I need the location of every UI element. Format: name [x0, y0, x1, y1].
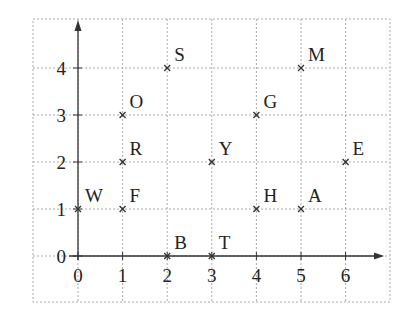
- point-o: O: [120, 91, 144, 118]
- x-tick-label: 1: [118, 265, 128, 286]
- point-y: Y: [209, 138, 233, 165]
- x-axis-arrow-icon: [374, 253, 384, 260]
- y-tick-label: 3: [57, 105, 67, 126]
- point-label: T: [219, 232, 231, 253]
- point-label: Y: [219, 138, 233, 159]
- point-label: H: [263, 185, 277, 206]
- y-tick-label: 1: [57, 199, 67, 220]
- point-label: S: [174, 44, 185, 65]
- point-label: A: [308, 185, 322, 206]
- point-g: G: [253, 91, 277, 118]
- point-h: H: [253, 185, 277, 212]
- point-label: E: [353, 138, 365, 159]
- point-m: M: [298, 44, 325, 71]
- coordinate-grid-chart: 012345601234 SMOGRYEWFHABT: [0, 0, 411, 325]
- y-tick-label: 4: [57, 58, 67, 79]
- tick-labels: 012345601234: [57, 58, 351, 286]
- x-tick-label: 2: [162, 265, 172, 286]
- point-label: O: [130, 91, 144, 112]
- point-a: A: [298, 185, 322, 212]
- point-label: R: [130, 138, 143, 159]
- x-tick-label: 6: [341, 265, 351, 286]
- x-tick-label: 4: [252, 265, 262, 286]
- y-tick-label: 0: [57, 246, 67, 267]
- x-tick-label: 0: [73, 265, 83, 286]
- point-label: B: [174, 232, 187, 253]
- point-label: G: [263, 91, 277, 112]
- point-label: W: [85, 185, 103, 206]
- x-tick-label: 3: [207, 265, 217, 286]
- point-w: W: [75, 185, 103, 212]
- y-axis-arrow-icon: [75, 20, 82, 31]
- x-tick-label: 5: [296, 265, 306, 286]
- y-tick-label: 2: [57, 152, 67, 173]
- point-label: F: [130, 185, 141, 206]
- data-points: SMOGRYEWFHABT: [75, 44, 364, 259]
- point-label: M: [308, 44, 325, 65]
